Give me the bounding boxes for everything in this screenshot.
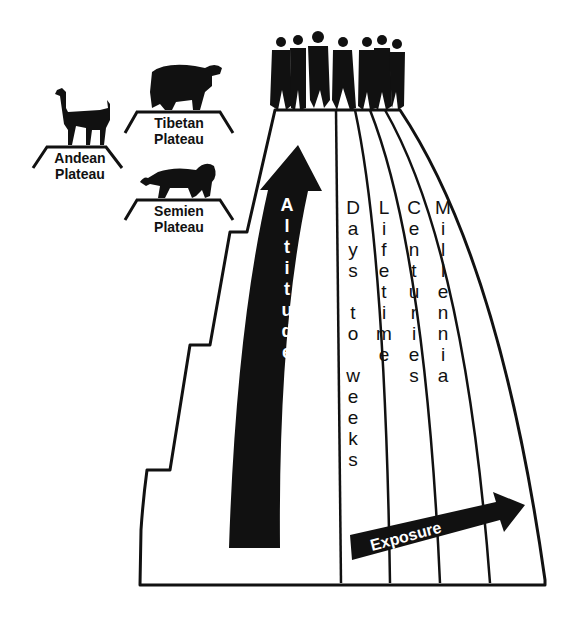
altitude-label: A l t i t u d e [276, 195, 298, 363]
semien-label-line2: Plateau [137, 219, 221, 235]
andean-label-line2: Plateau [40, 166, 120, 182]
tibetan-label-line2: Plateau [137, 131, 221, 147]
tibetan-label-line1: Tibetan [137, 115, 221, 131]
tibetan-plateau-label: Tibetan Plateau [137, 115, 221, 147]
andean-plateau-label: Andean Plateau [40, 150, 120, 182]
semien-label-line1: Semien [137, 203, 221, 219]
semien-plateau-label: Semien Plateau [137, 203, 221, 235]
band-label-centuries: C e n t u r i e s [403, 197, 425, 386]
band-label-lifetime: L i f e t i m e [373, 197, 395, 365]
andean-label-line1: Andean [40, 150, 120, 166]
band-label-millennia: M i l l e n n i a [432, 197, 454, 386]
lion-icon [140, 164, 216, 198]
altitude-exposure-diagram: Exposure Andean Plateau Tibetan Plateau … [0, 0, 570, 618]
band-label-days-to-weeks: D a y s t o w e e k s [342, 197, 364, 470]
yak-icon [150, 65, 222, 110]
llama-icon [55, 88, 110, 145]
people-group-icon [270, 31, 405, 110]
